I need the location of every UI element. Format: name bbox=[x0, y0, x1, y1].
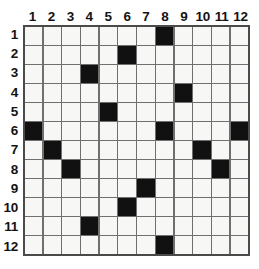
grid-cell-r4-c9[interactable] bbox=[175, 84, 192, 102]
grid-cell-r7-c4[interactable] bbox=[81, 141, 98, 159]
grid-cell-r4-c6[interactable] bbox=[118, 84, 135, 102]
grid-cell-r7-c7[interactable] bbox=[137, 141, 154, 159]
grid-cell-r7-c10[interactable] bbox=[193, 141, 210, 159]
grid-cell-r3-c3[interactable] bbox=[62, 65, 79, 83]
grid-cell-r6-c3[interactable] bbox=[62, 122, 79, 140]
grid-cell-r9-c5[interactable] bbox=[100, 179, 117, 197]
grid-cell-r4-c4[interactable] bbox=[81, 84, 98, 102]
grid-cell-r6-c9[interactable] bbox=[175, 122, 192, 140]
grid-cell-r4-c5[interactable] bbox=[100, 84, 117, 102]
grid-cell-r11-c1[interactable] bbox=[25, 217, 42, 235]
grid-cell-r7-c5[interactable] bbox=[100, 141, 117, 159]
grid-cell-r12-c9[interactable] bbox=[175, 236, 192, 254]
grid-cell-r3-c7[interactable] bbox=[137, 65, 154, 83]
grid-cell-r7-c11[interactable] bbox=[212, 141, 229, 159]
grid-cell-r1-c5[interactable] bbox=[100, 27, 117, 45]
grid-cell-r11-c4[interactable] bbox=[81, 217, 98, 235]
grid-cell-r12-c2[interactable] bbox=[44, 236, 61, 254]
grid-cell-r1-c4[interactable] bbox=[81, 27, 98, 45]
grid-cell-r2-c6[interactable] bbox=[118, 46, 135, 64]
grid-cell-r12-c12[interactable] bbox=[231, 236, 248, 254]
grid-cell-r5-c9[interactable] bbox=[175, 103, 192, 121]
grid-cell-r6-c10[interactable] bbox=[193, 122, 210, 140]
grid-cell-r12-c4[interactable] bbox=[81, 236, 98, 254]
grid-cell-r9-c7[interactable] bbox=[137, 179, 154, 197]
grid-cell-r11-c10[interactable] bbox=[193, 217, 210, 235]
grid-cell-r12-c3[interactable] bbox=[62, 236, 79, 254]
grid-cell-r4-c1[interactable] bbox=[25, 84, 42, 102]
grid-cell-r8-c5[interactable] bbox=[100, 160, 117, 178]
grid-cell-r4-c10[interactable] bbox=[193, 84, 210, 102]
grid-cell-r9-c8[interactable] bbox=[156, 179, 173, 197]
grid-cell-r8-c2[interactable] bbox=[44, 160, 61, 178]
grid-cell-r10-c7[interactable] bbox=[137, 198, 154, 216]
grid-cell-r10-c6[interactable] bbox=[118, 198, 135, 216]
grid-cell-r2-c8[interactable] bbox=[156, 46, 173, 64]
grid-cell-r8-c11[interactable] bbox=[212, 160, 229, 178]
grid-cell-r1-c7[interactable] bbox=[137, 27, 154, 45]
grid-cell-r3-c1[interactable] bbox=[25, 65, 42, 83]
grid-cell-r2-c5[interactable] bbox=[100, 46, 117, 64]
grid-cell-r2-c2[interactable] bbox=[44, 46, 61, 64]
grid-cell-r9-c1[interactable] bbox=[25, 179, 42, 197]
grid-cell-r5-c4[interactable] bbox=[81, 103, 98, 121]
grid-cell-r9-c11[interactable] bbox=[212, 179, 229, 197]
grid-cell-r7-c12[interactable] bbox=[231, 141, 248, 159]
grid-cell-r1-c6[interactable] bbox=[118, 27, 135, 45]
grid-cell-r5-c1[interactable] bbox=[25, 103, 42, 121]
grid-cell-r1-c11[interactable] bbox=[212, 27, 229, 45]
grid-cell-r5-c7[interactable] bbox=[137, 103, 154, 121]
grid-cell-r8-c9[interactable] bbox=[175, 160, 192, 178]
grid-cell-r2-c11[interactable] bbox=[212, 46, 229, 64]
grid-cell-r9-c2[interactable] bbox=[44, 179, 61, 197]
grid-cell-r1-c3[interactable] bbox=[62, 27, 79, 45]
grid-cell-r11-c9[interactable] bbox=[175, 217, 192, 235]
grid-cell-r7-c8[interactable] bbox=[156, 141, 173, 159]
grid-cell-r11-c3[interactable] bbox=[62, 217, 79, 235]
grid-cell-r5-c6[interactable] bbox=[118, 103, 135, 121]
grid-cell-r12-c6[interactable] bbox=[118, 236, 135, 254]
grid-cell-r10-c8[interactable] bbox=[156, 198, 173, 216]
grid-cell-r7-c9[interactable] bbox=[175, 141, 192, 159]
grid-cell-r4-c3[interactable] bbox=[62, 84, 79, 102]
grid-cell-r8-c8[interactable] bbox=[156, 160, 173, 178]
grid-cell-r9-c9[interactable] bbox=[175, 179, 192, 197]
grid-cell-r6-c2[interactable] bbox=[44, 122, 61, 140]
grid-cell-r11-c7[interactable] bbox=[137, 217, 154, 235]
grid-cell-r4-c2[interactable] bbox=[44, 84, 61, 102]
grid-cell-r2-c4[interactable] bbox=[81, 46, 98, 64]
grid-cell-r1-c12[interactable] bbox=[231, 27, 248, 45]
grid-cell-r10-c4[interactable] bbox=[81, 198, 98, 216]
grid-cell-r3-c11[interactable] bbox=[212, 65, 229, 83]
grid-cell-r1-c9[interactable] bbox=[175, 27, 192, 45]
grid-cell-r8-c6[interactable] bbox=[118, 160, 135, 178]
grid-cell-r10-c5[interactable] bbox=[100, 198, 117, 216]
grid-cell-r3-c8[interactable] bbox=[156, 65, 173, 83]
grid-cell-r6-c7[interactable] bbox=[137, 122, 154, 140]
grid-cell-r3-c12[interactable] bbox=[231, 65, 248, 83]
grid-cell-r8-c10[interactable] bbox=[193, 160, 210, 178]
grid-cell-r11-c2[interactable] bbox=[44, 217, 61, 235]
grid-cell-r6-c4[interactable] bbox=[81, 122, 98, 140]
grid-cell-r9-c10[interactable] bbox=[193, 179, 210, 197]
grid-cell-r10-c1[interactable] bbox=[25, 198, 42, 216]
grid-cell-r12-c10[interactable] bbox=[193, 236, 210, 254]
grid-cell-r2-c10[interactable] bbox=[193, 46, 210, 64]
grid-cell-r1-c8[interactable] bbox=[156, 27, 173, 45]
grid-cell-r6-c11[interactable] bbox=[212, 122, 229, 140]
grid-cell-r12-c5[interactable] bbox=[100, 236, 117, 254]
grid-cell-r3-c4[interactable] bbox=[81, 65, 98, 83]
grid-cell-r8-c7[interactable] bbox=[137, 160, 154, 178]
grid-cell-r11-c12[interactable] bbox=[231, 217, 248, 235]
grid-cell-r6-c8[interactable] bbox=[156, 122, 173, 140]
grid-cell-r3-c5[interactable] bbox=[100, 65, 117, 83]
grid-cell-r11-c8[interactable] bbox=[156, 217, 173, 235]
grid-cell-r10-c3[interactable] bbox=[62, 198, 79, 216]
grid-cell-r9-c3[interactable] bbox=[62, 179, 79, 197]
grid-cell-r7-c2[interactable] bbox=[44, 141, 61, 159]
grid-cell-r11-c6[interactable] bbox=[118, 217, 135, 235]
grid-cell-r5-c3[interactable] bbox=[62, 103, 79, 121]
grid-cell-r7-c3[interactable] bbox=[62, 141, 79, 159]
grid-cell-r10-c10[interactable] bbox=[193, 198, 210, 216]
grid-cell-r10-c11[interactable] bbox=[212, 198, 229, 216]
